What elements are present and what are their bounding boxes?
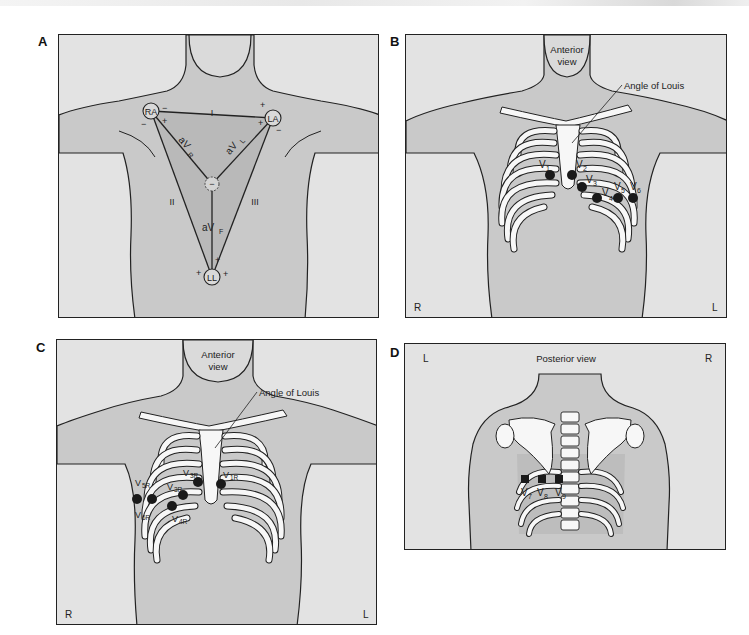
lead-ii-label: II (169, 197, 174, 207)
side-label-left: L (363, 609, 369, 620)
panel-c-letter: C (36, 340, 45, 355)
humeral-head-right (626, 424, 644, 448)
electrode-v1-subscript: 1 (546, 165, 550, 172)
electrode-v9-label: V (555, 487, 562, 498)
electrode-la-label: LA (267, 114, 278, 124)
view-label: Anterior (201, 349, 234, 360)
electrode-v4r-label: V (172, 514, 178, 524)
electrode-v5r-label: V (135, 478, 141, 488)
view-label-line2: view (208, 361, 227, 372)
lead-avf-subscript: F (219, 228, 223, 235)
polarity-mark: − (162, 103, 167, 113)
electrode-ra: RA (143, 103, 159, 119)
panel-c-right-sided-leads: Anterior view (56, 339, 377, 625)
scan-edge (0, 0, 749, 6)
electrode-v1-label: V (539, 159, 546, 170)
electrode-v6-subscript: 6 (637, 187, 641, 194)
side-label-left: L (712, 302, 718, 313)
electrode-v3r-upper-label: V (183, 468, 189, 478)
electrode-v1r-label: V (223, 470, 229, 480)
electrode-ra-label: RA (145, 107, 158, 117)
electrode-ll-label: LL (207, 273, 217, 283)
electrode-v3r-upper-subscript: 3R (190, 472, 199, 479)
panel-a-limb-leads: RA LA LL − I II III aV R aV L aV F (58, 34, 379, 318)
electrode-v2-label: V (576, 159, 583, 170)
lead-iii-label: III (251, 197, 259, 207)
panel-b-precordial-leads: Anterior view (405, 34, 727, 318)
side-label-left: L (423, 353, 429, 364)
panel-a-letter: A (38, 34, 47, 49)
electrode-v7-label: V (521, 487, 528, 498)
panel-d-posterior-leads: Posterior view V 7 V 8 V 9 L R (404, 343, 726, 550)
electrode-v3r-label: V (167, 482, 173, 492)
electrode-v6r-subscript: 6R (142, 514, 151, 521)
electrode-v5r-subscript: 5R (142, 482, 151, 489)
electrode-ll: LL (204, 269, 220, 285)
central-terminal-label: − (209, 179, 214, 189)
electrode-la: LA (265, 110, 281, 126)
angle-of-louis-label: Angle of Louis (259, 387, 319, 398)
electrode-v5-label: V (614, 181, 621, 192)
electrode-v7-subscript: 7 (528, 493, 532, 500)
view-label-line2: view (557, 56, 576, 67)
electrode-v4-label: V (602, 187, 609, 198)
side-label-right: R (414, 302, 421, 313)
angle-of-louis-label: Angle of Louis (624, 80, 684, 91)
humeral-head-left (496, 424, 514, 448)
panel-c-figure: Anterior view (57, 340, 377, 625)
electrode-v6-label: V (630, 181, 637, 192)
electrode-v8-subscript: 8 (544, 493, 548, 500)
polarity-mark: + (162, 116, 167, 126)
electrode-v3r-subscript: 3R (174, 486, 183, 493)
electrode-v3-label: V (586, 174, 593, 185)
electrode-v4r-subscript: 4R (179, 518, 188, 525)
electrode-v1r-subscript: 1R (230, 474, 239, 481)
polarity-mark: − (276, 125, 281, 135)
polarity-mark: + (260, 100, 265, 110)
polarity-mark: + (258, 118, 263, 128)
polarity-mark: + (223, 269, 228, 279)
electrode-v3-subscript: 3 (593, 180, 597, 187)
electrode-v8-label: V (537, 487, 544, 498)
central-terminal: − (205, 177, 219, 191)
lead-avf-text: aV (202, 222, 215, 233)
polarity-mark: − (141, 119, 146, 129)
electrode-v5-subscript: 5 (621, 187, 625, 194)
polarity-mark: + (215, 255, 220, 265)
panel-d-figure: Posterior view V 7 V 8 V 9 L R (405, 344, 726, 550)
view-label: Posterior view (536, 353, 596, 364)
electrode-v6r-label: V (135, 510, 141, 520)
lead-i-label: I (211, 108, 214, 118)
view-label: Anterior (550, 44, 583, 55)
side-label-right: R (65, 609, 72, 620)
panel-d-letter: D (390, 345, 399, 360)
panel-b-letter: B (390, 34, 399, 49)
side-label-right: R (705, 353, 712, 364)
panel-a-figure: RA LA LL − I II III aV R aV L aV F (59, 35, 379, 318)
panel-b-figure: Anterior view (406, 35, 727, 318)
electrode-v2-subscript: 2 (583, 165, 587, 172)
electrode-v9-subscript: 9 (562, 493, 566, 500)
polarity-mark: + (196, 268, 201, 278)
electrode-v4-subscript: 4 (609, 195, 613, 202)
